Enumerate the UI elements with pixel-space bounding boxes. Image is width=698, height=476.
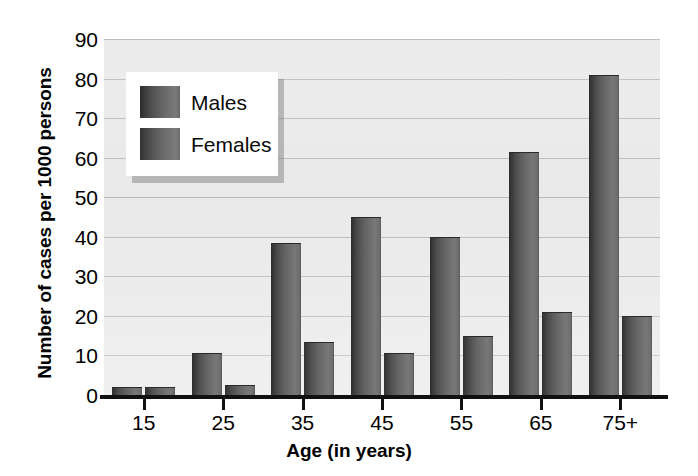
bar-group bbox=[509, 39, 572, 395]
bar-group bbox=[430, 39, 493, 395]
legend-label-females: Females bbox=[191, 134, 272, 155]
y-axis-tick-label: 50 bbox=[52, 187, 98, 208]
bar-group bbox=[589, 39, 652, 395]
y-axis-tick-label: 90 bbox=[52, 29, 98, 50]
legend-swatch-females-icon bbox=[140, 128, 180, 160]
legend-item-males: Males bbox=[140, 85, 247, 119]
bar-males-25 bbox=[192, 353, 222, 395]
y-axis-tick-label: 40 bbox=[52, 226, 98, 247]
legend-item-females: Females bbox=[140, 127, 272, 161]
bar-males-35 bbox=[271, 243, 301, 395]
bar-males-75plus bbox=[589, 75, 619, 395]
legend-label-males: Males bbox=[191, 92, 247, 113]
bar-males-65 bbox=[509, 152, 539, 395]
x-axis-tick-label: 35 bbox=[258, 411, 348, 434]
y-axis-tick-label: 10 bbox=[52, 345, 98, 366]
bar-females-25 bbox=[225, 385, 255, 395]
x-axis-tick-mark bbox=[540, 399, 543, 410]
bar-males-55 bbox=[430, 237, 460, 395]
bar-group bbox=[351, 39, 414, 395]
y-axis-tick-label: 70 bbox=[52, 108, 98, 129]
y-axis-tick-label: 80 bbox=[52, 68, 98, 89]
x-axis-line bbox=[100, 395, 668, 399]
bar-females-55 bbox=[463, 336, 493, 395]
bar-females-45 bbox=[384, 353, 414, 395]
y-axis-tick-label: 0 bbox=[52, 385, 98, 406]
x-axis-title: Age (in years) bbox=[0, 440, 698, 462]
x-axis-tick-label: 15 bbox=[99, 411, 189, 434]
x-axis-tick-label: 45 bbox=[337, 411, 427, 434]
x-axis-tick-label: 75+ bbox=[575, 411, 665, 434]
bar-females-65 bbox=[542, 312, 572, 395]
x-axis-tick-mark bbox=[302, 399, 305, 410]
bar-chart: Number of cases per 1000 persons 0102030… bbox=[0, 0, 698, 476]
y-axis-tick-label: 30 bbox=[52, 266, 98, 287]
chart-legend: Males Females bbox=[126, 72, 278, 176]
x-axis-tick-label: 55 bbox=[416, 411, 506, 434]
bar-females-35 bbox=[304, 342, 334, 395]
x-axis-tick-mark bbox=[460, 399, 463, 410]
x-axis-tick-mark bbox=[619, 399, 622, 410]
y-axis-tick-labels: 0102030405060708090 bbox=[52, 0, 98, 476]
legend-swatch-males-icon bbox=[140, 86, 180, 118]
bar-males-15 bbox=[112, 387, 142, 395]
x-axis-tick-label: 25 bbox=[178, 411, 268, 434]
bar-group bbox=[271, 39, 334, 395]
x-axis-tick-label: 65 bbox=[496, 411, 586, 434]
bar-females-75plus bbox=[622, 316, 652, 395]
x-axis-tick-mark bbox=[381, 399, 384, 410]
bar-females-15 bbox=[145, 387, 175, 395]
x-axis-tick-mark bbox=[143, 399, 146, 410]
x-axis-tick-mark bbox=[222, 399, 225, 410]
y-axis-tick-label: 60 bbox=[52, 147, 98, 168]
bar-males-45 bbox=[351, 217, 381, 395]
y-axis-tick-label: 20 bbox=[52, 305, 98, 326]
